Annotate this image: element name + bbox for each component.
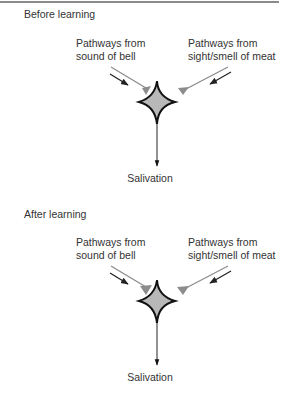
neuron-diagram [0, 0, 291, 418]
bell-synapse-small [142, 86, 151, 95]
meat-synapse [178, 87, 189, 95]
panel-after [110, 266, 231, 365]
meat-arrow [210, 72, 231, 84]
meat-arrow [210, 271, 231, 283]
panel-before [110, 67, 231, 166]
meat-synapse [177, 286, 189, 295]
